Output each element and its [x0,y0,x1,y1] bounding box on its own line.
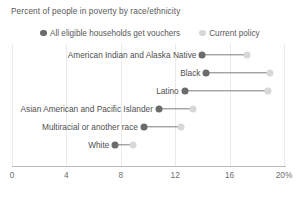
chart-row: Black [0,64,299,82]
chart-row: Latino [0,82,299,100]
data-point-vouchers[interactable] [199,52,206,59]
row-connector [206,72,270,73]
chart-row: Multiracial or another race [0,118,299,136]
row-label: Latino [156,86,179,96]
plot-area: American Indian and Alaska NativeBlackLa… [0,44,299,170]
poverty-dumbbell-chart: Percent of people in poverty by race/eth… [0,0,299,198]
row-label: American Indian and Alaska Native [68,50,197,60]
data-point-current-policy[interactable] [130,142,137,149]
data-point-current-policy[interactable] [244,52,251,59]
row-connector [185,90,268,91]
row-label: White [88,140,109,150]
data-point-vouchers[interactable] [140,124,147,131]
data-point-current-policy[interactable] [177,124,184,131]
x-tick-label: 20% [276,170,293,180]
legend-item-current-policy[interactable]: Current policy [199,29,260,38]
data-point-vouchers[interactable] [203,70,210,77]
chart-title: Percent of people in poverty by race/eth… [11,6,180,16]
legend-dot-light-icon [199,30,206,37]
legend-item-vouchers[interactable]: All eligible households get vouchers [40,29,180,38]
data-point-vouchers[interactable] [181,88,188,95]
x-tick-label: 8 [118,170,123,180]
data-point-current-policy[interactable] [267,70,274,77]
chart-legend: All eligible households get vouchers Cur… [40,27,260,39]
legend-label-vouchers: All eligible households get vouchers [50,29,180,38]
row-connector [159,108,193,109]
x-tick-label: 16 [225,170,234,180]
row-connector [202,54,247,55]
data-point-vouchers[interactable] [112,142,119,149]
data-point-current-policy[interactable] [264,88,271,95]
data-point-current-policy[interactable] [189,106,196,113]
row-label: Black [180,68,200,78]
x-tick-label: 4 [64,170,69,180]
legend-dot-dark-icon [40,30,47,37]
chart-row: White [0,136,299,154]
chart-row: American Indian and Alaska Native [0,46,299,64]
x-axis-line [12,166,286,167]
row-label: Multiracial or another race [42,122,138,132]
x-tick-label: 12 [171,170,180,180]
data-point-vouchers[interactable] [155,106,162,113]
x-tick-label: 0 [10,170,15,180]
row-label: Asian American and Pacific Islander [21,104,153,114]
chart-row: Asian American and Pacific Islander [0,100,299,118]
row-connector [144,126,181,127]
legend-label-current-policy: Current policy [209,29,260,38]
